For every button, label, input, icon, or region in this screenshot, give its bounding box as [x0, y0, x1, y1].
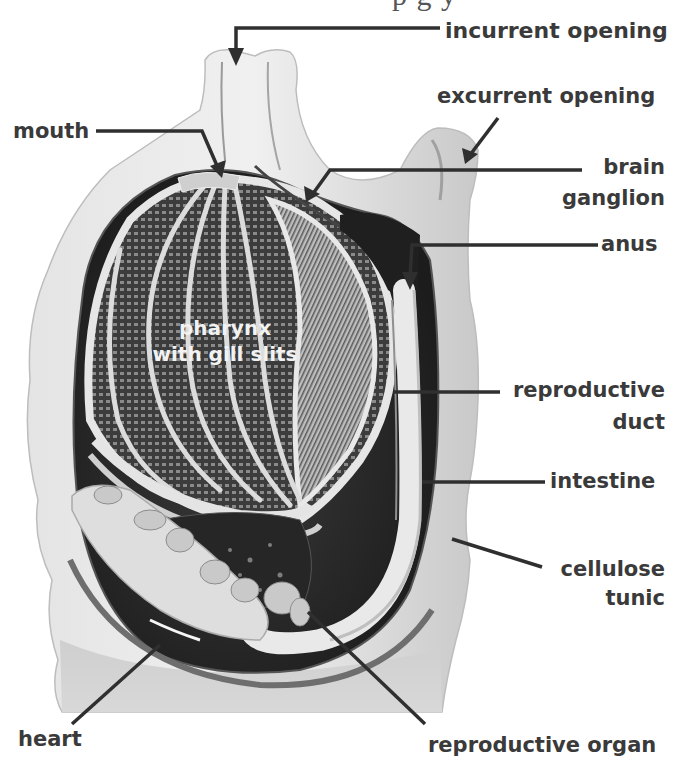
- label-pharynx-with-gill-slits: pharynx with gill slits: [140, 315, 310, 367]
- excurrent-leader: [470, 118, 498, 155]
- label-heart: heart: [18, 727, 82, 752]
- label-incurrent-opening: incurrent opening: [445, 18, 668, 43]
- cellulose-tunic-line1: cellulose: [561, 557, 665, 582]
- brain-ganglion-line1: brain: [562, 155, 665, 180]
- tunicate-anatomy-diagram: p g y: [0, 0, 678, 759]
- label-reproductive-organ: reproductive organ: [428, 733, 656, 758]
- label-cellulose-tunic: cellulose tunic: [561, 557, 665, 611]
- label-intestine: intestine: [550, 469, 655, 494]
- pharynx-line1: pharynx: [140, 315, 310, 341]
- pharynx-line2: with gill slits: [140, 341, 310, 367]
- reproductive-duct-line1: reproductive: [513, 378, 665, 403]
- reproductive-duct-line2: duct: [513, 410, 665, 435]
- cellulose-tunic-line2: tunic: [561, 586, 665, 611]
- label-brain-ganglion: brain ganglion: [562, 155, 665, 211]
- label-anus: anus: [601, 232, 658, 257]
- label-mouth: mouth: [13, 119, 89, 144]
- brain-ganglion-line2: ganglion: [562, 186, 665, 211]
- label-reproductive-duct: reproductive duct: [513, 378, 665, 435]
- label-excurrent-opening: excurrent opening: [437, 84, 655, 109]
